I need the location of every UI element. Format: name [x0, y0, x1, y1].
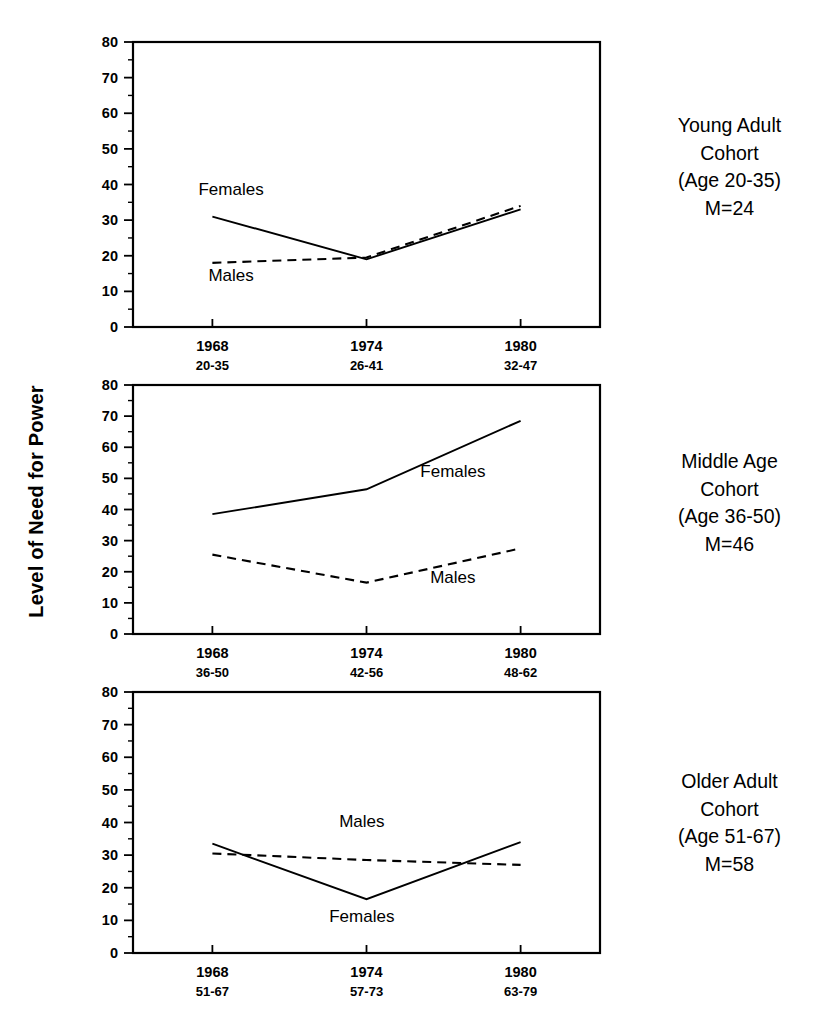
series-label-males: Males — [430, 568, 475, 587]
x-tick-age-label: 57-73 — [350, 984, 383, 999]
y-tick-label: 40 — [102, 815, 118, 831]
cohort-caption-line: M=46 — [622, 531, 837, 559]
y-tick-label: 80 — [102, 34, 118, 50]
x-tick-age-label: 42-56 — [350, 665, 383, 680]
x-tick-age-label: 32-47 — [504, 358, 537, 373]
y-tick-label: 0 — [110, 945, 118, 961]
chart-panel-young-adult: 01020304050607080196820-35197426-4119803… — [133, 42, 600, 327]
x-tick-year-label: 1968 — [196, 645, 228, 661]
figure-need-for-power: Level of Need for Power 0102030405060708… — [0, 0, 837, 1027]
y-axis-title: Level of Need for Power — [25, 342, 48, 662]
cohort-caption-line: (Age 51-67) — [622, 823, 837, 851]
cohort-caption-line: Cohort — [622, 796, 837, 824]
cohort-caption-line: Cohort — [622, 140, 837, 168]
y-tick-label: 50 — [102, 470, 118, 486]
cohort-caption-young-adult: Young AdultCohort(Age 20-35)M=24 — [622, 112, 837, 223]
y-tick-label: 10 — [102, 912, 118, 928]
x-tick-age-label: 36-50 — [196, 665, 229, 680]
x-tick-age-label: 26-41 — [350, 358, 383, 373]
y-tick-label: 60 — [102, 749, 118, 765]
y-tick-label: 40 — [102, 502, 118, 518]
series-label-males: Males — [339, 812, 384, 831]
x-tick-year-label: 1980 — [504, 338, 536, 354]
cohort-caption-line: (Age 36-50) — [622, 503, 837, 531]
cohort-caption-line: Cohort — [622, 476, 837, 504]
y-tick-label: 20 — [102, 248, 118, 264]
x-tick-age-label: 51-67 — [196, 984, 229, 999]
cohort-caption-older-adult: Older AdultCohort(Age 51-67)M=58 — [622, 768, 837, 879]
y-tick-label: 20 — [102, 564, 118, 580]
y-tick-label: 80 — [102, 377, 118, 393]
chart-panel-middle-age: 01020304050607080196836-50197442-5619804… — [133, 385, 600, 634]
plot-area-older-adult: 01020304050607080196851-67197457-7319806… — [71, 684, 648, 1015]
cohort-caption-line: M=58 — [622, 851, 837, 879]
x-tick-year-label: 1980 — [504, 964, 536, 980]
plot-area-middle-age: 01020304050607080196836-50197442-5619804… — [71, 377, 648, 696]
series-label-females: Females — [329, 907, 394, 926]
y-tick-label: 70 — [102, 408, 118, 424]
y-tick-label: 40 — [102, 177, 118, 193]
cohort-caption-line: Older Adult — [622, 768, 837, 796]
y-tick-label: 30 — [102, 212, 118, 228]
chart-panel-older-adult: 01020304050607080196851-67197457-7319806… — [133, 692, 600, 953]
y-tick-label: 0 — [110, 319, 118, 335]
y-tick-label: 50 — [102, 782, 118, 798]
y-tick-label: 60 — [102, 105, 118, 121]
y-tick-label: 20 — [102, 880, 118, 896]
x-tick-age-label: 20-35 — [196, 358, 229, 373]
x-tick-year-label: 1974 — [350, 645, 382, 661]
y-tick-label: 60 — [102, 439, 118, 455]
x-tick-age-label: 48-62 — [504, 665, 537, 680]
y-tick-label: 50 — [102, 141, 118, 157]
x-tick-year-label: 1968 — [196, 964, 228, 980]
y-tick-label: 70 — [102, 717, 118, 733]
y-tick-label: 10 — [102, 595, 118, 611]
cohort-caption-line: Young Adult — [622, 112, 837, 140]
y-tick-label: 30 — [102, 847, 118, 863]
series-label-females: Females — [420, 462, 485, 481]
y-tick-label: 80 — [102, 684, 118, 700]
series-line-females — [212, 842, 520, 899]
series-line-males — [212, 206, 520, 263]
y-tick-label: 10 — [102, 283, 118, 299]
cohort-caption-middle-age: Middle AgeCohort(Age 36-50)M=46 — [622, 448, 837, 559]
x-tick-year-label: 1974 — [350, 338, 382, 354]
y-tick-label: 0 — [110, 626, 118, 642]
cohort-caption-line: M=24 — [622, 195, 837, 223]
cohort-caption-line: (Age 20-35) — [622, 167, 837, 195]
x-tick-age-label: 63-79 — [504, 984, 537, 999]
plot-frame — [133, 385, 600, 634]
cohort-caption-line: Middle Age — [622, 448, 837, 476]
plot-area-young-adult: 01020304050607080196820-35197426-4119803… — [71, 34, 648, 389]
series-line-females — [212, 209, 520, 259]
series-label-males: Males — [208, 266, 253, 285]
x-tick-year-label: 1968 — [196, 338, 228, 354]
y-tick-label: 30 — [102, 533, 118, 549]
x-tick-year-label: 1980 — [504, 645, 536, 661]
x-tick-year-label: 1974 — [350, 964, 382, 980]
series-label-females: Females — [198, 180, 263, 199]
y-tick-label: 70 — [102, 70, 118, 86]
